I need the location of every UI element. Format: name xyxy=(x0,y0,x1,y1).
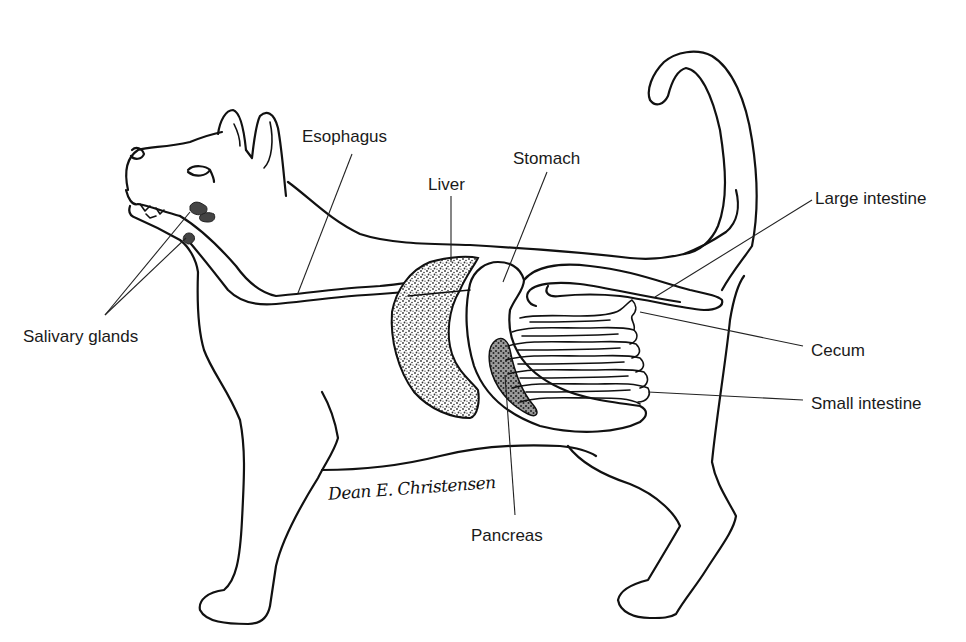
eye xyxy=(188,166,214,182)
leader-large-intestine xyxy=(655,200,812,297)
leader-cecum xyxy=(640,312,803,346)
leader-stomach xyxy=(503,172,547,282)
esophagus-tube xyxy=(180,216,420,304)
leader-salivary-1 xyxy=(105,212,190,315)
rump-line xyxy=(684,190,738,254)
cat-anatomy-drawing xyxy=(0,0,966,642)
label-small-intestine: Small intestine xyxy=(811,395,922,412)
belly-line xyxy=(322,445,596,470)
ear-left-inner xyxy=(234,124,240,146)
leader-small-intestine xyxy=(648,392,803,400)
leader-lines xyxy=(105,154,812,515)
small-intestine xyxy=(506,300,649,404)
ear-left xyxy=(218,110,246,150)
label-esophagus: Esophagus xyxy=(302,128,387,145)
label-cecum: Cecum xyxy=(811,342,865,359)
leader-esophagus xyxy=(298,154,352,293)
large-intestine xyxy=(524,265,722,310)
label-stomach: Stomach xyxy=(513,150,580,167)
head-outline xyxy=(126,132,222,190)
label-liver: Liver xyxy=(428,176,465,193)
label-pancreas: Pancreas xyxy=(471,527,543,544)
liver xyxy=(392,257,479,418)
ear-right-inner xyxy=(264,122,272,168)
label-large-intestine: Large intestine xyxy=(815,190,927,207)
upper-jaw xyxy=(126,190,180,216)
back-line xyxy=(288,182,684,259)
chest-front-leg xyxy=(198,272,270,624)
label-salivary-glands: Salivary glands xyxy=(23,328,138,345)
ear-right xyxy=(246,113,286,196)
leader-salivary-2 xyxy=(105,238,186,315)
tail xyxy=(649,52,757,290)
